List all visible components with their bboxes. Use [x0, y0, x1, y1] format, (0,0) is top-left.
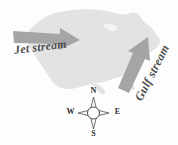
- compass-center-circle: [88, 107, 100, 119]
- compass-rose: [78, 97, 109, 129]
- compass-label-south: S: [89, 130, 98, 138]
- compass-label-north: N: [89, 87, 98, 95]
- compass-label-east: E: [113, 108, 122, 116]
- compass-label-west: W: [66, 108, 75, 116]
- weather-map-figure: Jet stream Gulf stream N E S W: [0, 0, 178, 145]
